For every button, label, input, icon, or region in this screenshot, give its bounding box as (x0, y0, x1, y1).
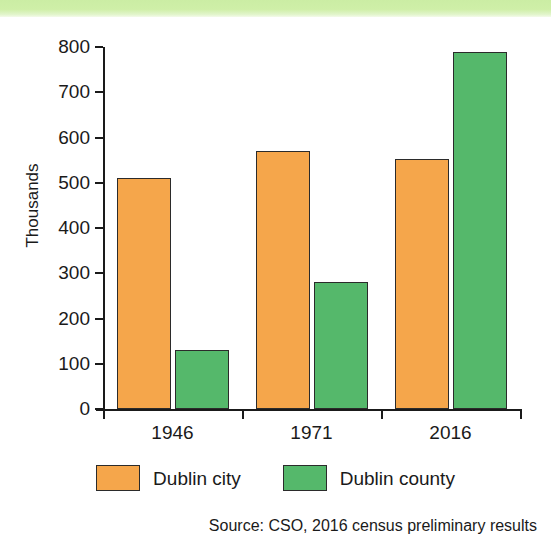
bar-1946-city (117, 178, 171, 409)
y-tick-label-700: 700 (34, 82, 90, 101)
y-tick-label-wrap-600: 600 (30, 128, 90, 147)
chart-legend: Dublin city Dublin county (0, 465, 551, 491)
y-tick-label-400: 400 (34, 218, 90, 237)
bar-chart-figure: Thousands 0100200300400500600700800 1946… (0, 17, 551, 536)
x-label-1946: 1946 (113, 422, 233, 444)
y-tick-label-wrap-300: 300 (30, 263, 90, 282)
y-tick-label-500: 500 (34, 173, 90, 192)
y-axis-title: Thousands (24, 146, 41, 266)
bar-1971-city (256, 151, 310, 409)
bar-1946-county (175, 350, 229, 409)
y-tick-label-600: 600 (34, 128, 90, 147)
x-tick-end (520, 409, 522, 419)
legend-item-county: Dublin county (283, 465, 455, 491)
legend-swatch-city (96, 465, 140, 491)
y-tick-200 (95, 318, 103, 320)
y-tick-300 (95, 272, 103, 274)
y-tick-400 (95, 227, 103, 229)
bar-1971-county (314, 282, 368, 409)
y-tick-800 (95, 46, 103, 48)
top-banner (0, 0, 551, 17)
legend-item-city: Dublin city (96, 465, 241, 491)
bar-2016-county (453, 52, 507, 409)
y-tick-label-wrap-500: 500 (30, 173, 90, 192)
x-tick-2016 (381, 409, 383, 419)
y-axis-line (103, 47, 105, 409)
y-tick-label-wrap-400: 400 (30, 218, 90, 237)
x-tick-1971 (242, 409, 244, 419)
y-tick-100 (95, 363, 103, 365)
y-tick-label-wrap-800: 800 (30, 37, 90, 56)
y-tick-0 (95, 408, 103, 410)
y-tick-700 (95, 91, 103, 93)
y-tick-label-wrap-0: 0 (30, 399, 90, 418)
legend-label-city: Dublin city (153, 469, 241, 488)
y-tick-500 (95, 182, 103, 184)
x-label-1971: 1971 (252, 422, 372, 444)
legend-swatch-county (283, 465, 327, 491)
bar-2016-city (395, 159, 449, 409)
y-tick-label-100: 100 (34, 354, 90, 373)
x-axis-line (96, 409, 520, 411)
y-tick-label-800: 800 (34, 37, 90, 56)
y-tick-label-300: 300 (34, 263, 90, 282)
source-note: Source: CSO, 2016 census preliminary res… (209, 517, 537, 535)
y-tick-label-200: 200 (34, 309, 90, 328)
legend-label-county: Dublin county (340, 469, 455, 488)
y-tick-label-0: 0 (34, 399, 90, 418)
y-tick-label-wrap-100: 100 (30, 354, 90, 373)
x-label-2016: 2016 (391, 422, 511, 444)
x-tick-1946 (103, 409, 105, 419)
y-tick-600 (95, 137, 103, 139)
y-tick-label-wrap-200: 200 (30, 309, 90, 328)
y-tick-label-wrap-700: 700 (30, 82, 90, 101)
